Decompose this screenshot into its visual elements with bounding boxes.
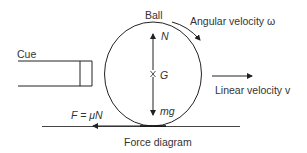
ball-label: Ball bbox=[145, 9, 163, 21]
angular-velocity-label: Angular velocity ω bbox=[190, 15, 275, 27]
linear-velocity-label: Linear velocity v bbox=[215, 84, 290, 96]
cue-label: Cue bbox=[17, 48, 36, 60]
normal-force-label: N bbox=[161, 30, 169, 42]
center-of-gravity-icon bbox=[151, 71, 156, 77]
weight-label: mg bbox=[160, 105, 175, 117]
friction-label: F = μN bbox=[71, 109, 103, 121]
center-of-gravity-label: G bbox=[160, 69, 168, 81]
cue-stick bbox=[18, 61, 92, 86]
caption: Force diagram bbox=[124, 136, 192, 148]
